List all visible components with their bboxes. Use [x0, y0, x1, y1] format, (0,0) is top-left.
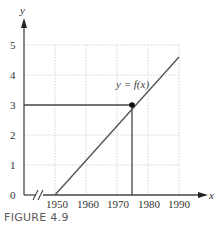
- x-tick-1950: 1950: [46, 198, 69, 210]
- x-tick-1970: 1970: [107, 198, 130, 210]
- y-tick-4: 4: [10, 69, 16, 81]
- function-label: y = f(x): [115, 78, 149, 91]
- y-tick-1: 1: [10, 159, 16, 171]
- y-tick-5: 5: [10, 39, 16, 51]
- y-tick-2: 2: [10, 129, 16, 141]
- y-tick-0: 0: [10, 189, 16, 201]
- y-axis-label: y: [19, 4, 25, 16]
- figure-caption: FIGURE 4.9: [4, 211, 69, 224]
- highlighted-point: [129, 102, 135, 108]
- y-axis-arrow-icon: [21, 18, 27, 28]
- x-axis-label: x: [208, 189, 214, 201]
- x-axis-arrow-icon: [198, 192, 208, 198]
- x-tick-1980: 1980: [138, 198, 161, 210]
- x-tick-labels: 1950 1960 1970 1980 1990: [46, 198, 191, 210]
- grid: [24, 45, 179, 195]
- line-chart: y x y = f(x) 0 1 2 3 4 5 1950 1960 1970 …: [0, 0, 219, 231]
- x-tick-1960: 1960: [77, 198, 100, 210]
- x-tick-1990: 1990: [168, 198, 191, 210]
- y-tick-labels: 0 1 2 3 4 5: [10, 39, 16, 201]
- y-tick-3: 3: [10, 99, 16, 111]
